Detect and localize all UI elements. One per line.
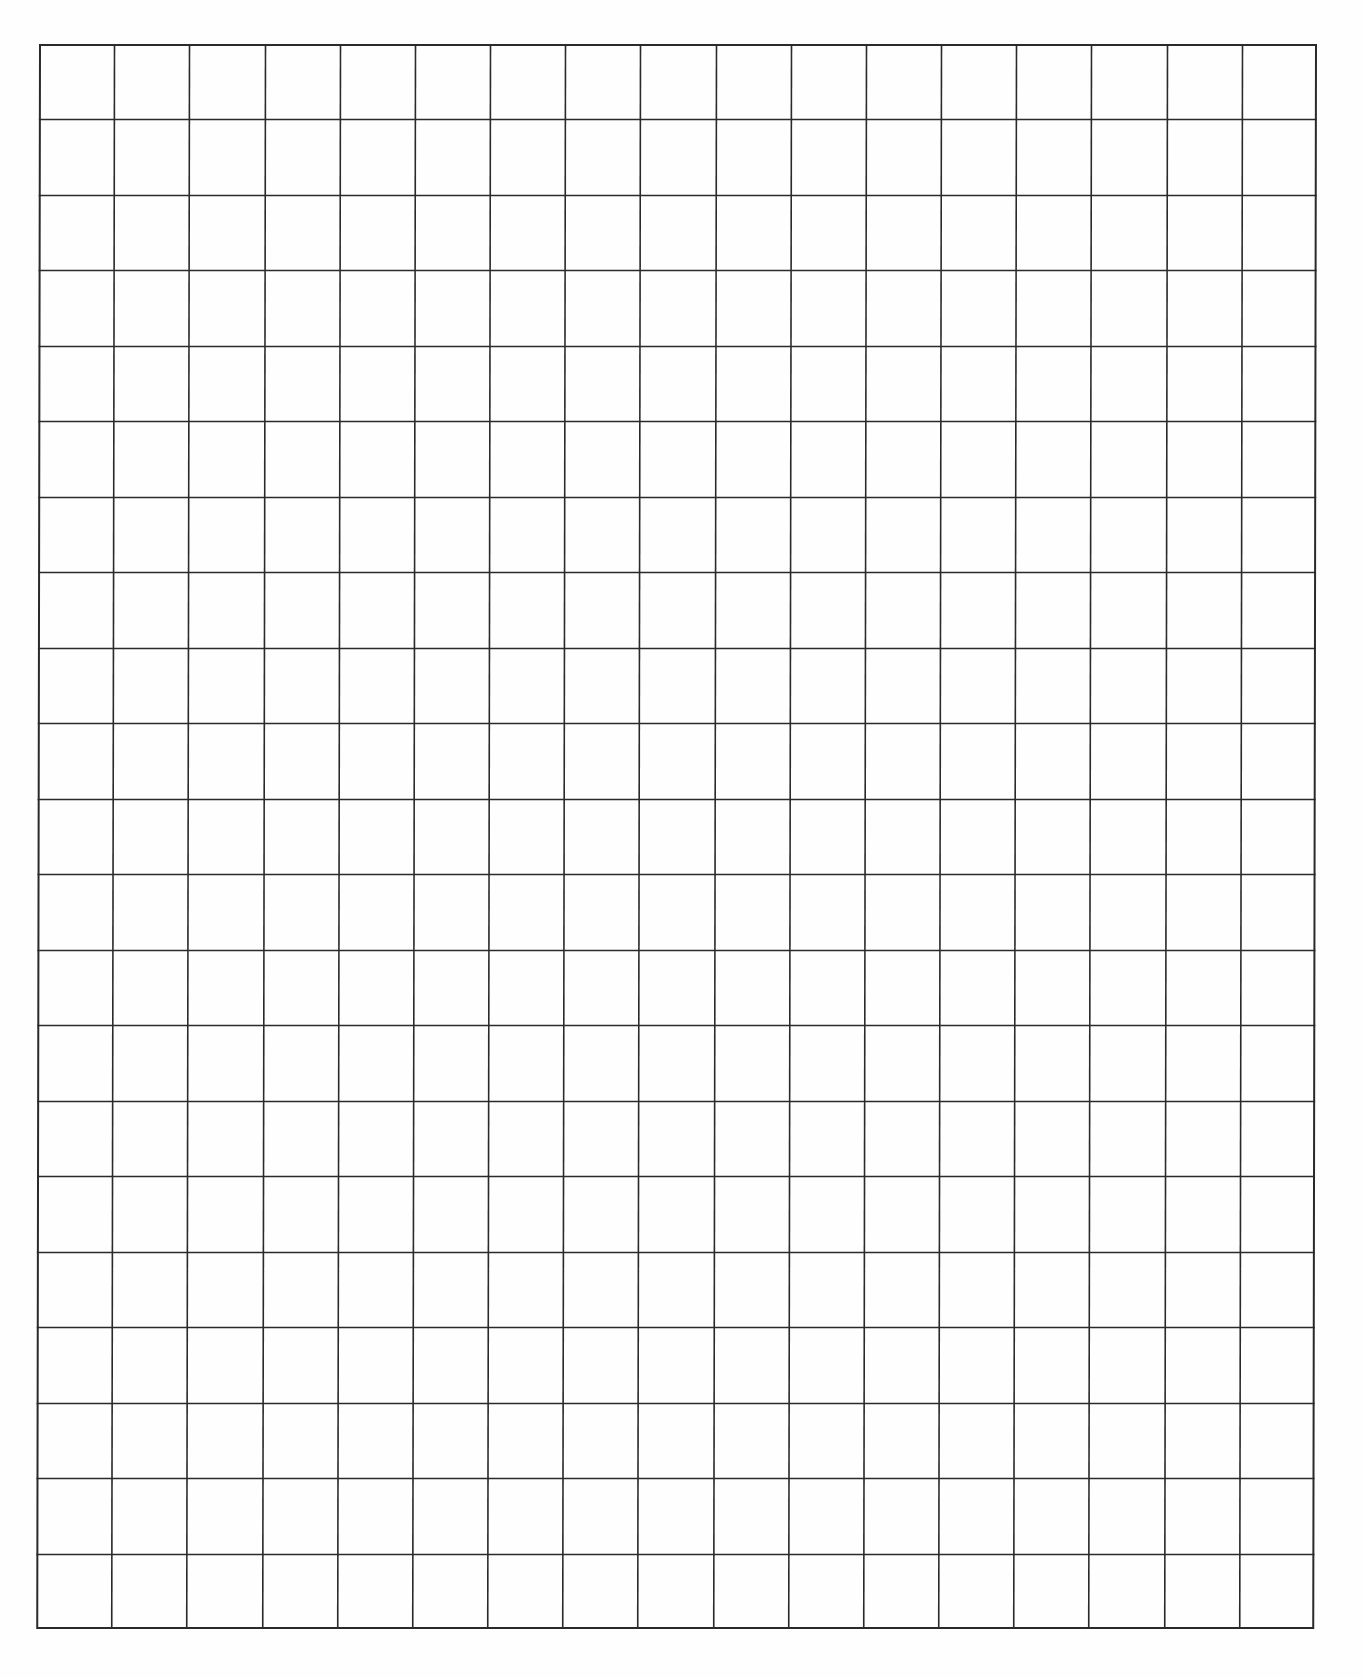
vertical-grid-line — [1089, 44, 1092, 1629]
vertical-grid-line — [714, 44, 717, 1629]
vertical-grid-line — [187, 44, 190, 1629]
vertical-grid-line — [864, 44, 867, 1629]
graph-paper-sheet — [0, 0, 1364, 1678]
vertical-grid-line — [488, 44, 491, 1629]
vertical-grid-line — [789, 44, 792, 1629]
vertical-grid-line — [338, 44, 341, 1629]
vertical-grid-line — [1165, 44, 1168, 1629]
vertical-grid-line — [263, 44, 266, 1629]
vertical-grid-line — [563, 44, 566, 1629]
vertical-grid-line — [1240, 44, 1243, 1629]
vertical-grid-line — [638, 44, 641, 1629]
vertical-grid-line — [413, 44, 416, 1629]
square-grid — [36, 44, 1317, 1629]
vertical-grid-line — [939, 44, 942, 1629]
vertical-grid-line — [112, 44, 115, 1629]
vertical-grid-line — [1014, 44, 1017, 1629]
grid-lines — [36, 44, 1317, 1629]
